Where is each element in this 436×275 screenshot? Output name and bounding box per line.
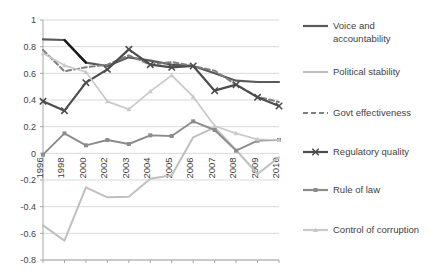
data-point-marker bbox=[84, 143, 88, 147]
y-tick-label: 0.2 bbox=[23, 122, 36, 132]
chart-container: 10.80.60.40.20-0.2-0.4-0.6-0.8 199619982… bbox=[0, 0, 436, 275]
series-regulatory-quality bbox=[40, 46, 282, 114]
y-tick-label: 1 bbox=[31, 15, 36, 25]
y-tick-label: -0.6 bbox=[20, 229, 36, 239]
series-line bbox=[43, 39, 279, 82]
legend-item[interactable]: Political stability bbox=[303, 66, 400, 77]
legend-item[interactable]: Regulatory quality bbox=[303, 146, 409, 157]
y-axis-tick-labels: 10.80.60.40.20-0.2-0.4-0.6-0.8 bbox=[20, 15, 36, 265]
x-axis-tick-labels: 1996199820002002200320042005200620072008… bbox=[34, 157, 281, 178]
legend-label: Control of corruption bbox=[333, 224, 419, 235]
legend-label: Voice and bbox=[333, 20, 375, 31]
series-voice-and-accountability bbox=[43, 39, 279, 82]
series-line bbox=[43, 127, 279, 240]
y-tick-label: 0.6 bbox=[23, 69, 36, 79]
x-tick-label: 1998 bbox=[55, 157, 66, 178]
data-point-marker bbox=[314, 188, 318, 192]
line-chart: 10.80.60.40.20-0.2-0.4-0.6-0.8 199619982… bbox=[0, 0, 436, 275]
chart-legend: Voice andaccountabilityPolitical stabili… bbox=[303, 20, 419, 235]
data-point-marker bbox=[213, 128, 217, 132]
legend-item[interactable]: Rule of law bbox=[303, 184, 380, 195]
data-point-marker bbox=[191, 119, 195, 123]
series-voice-accent bbox=[64, 40, 85, 63]
series-line-segment bbox=[64, 40, 85, 63]
data-point-marker bbox=[127, 142, 131, 146]
x-tick-label: 2007 bbox=[206, 157, 217, 178]
legend-label: accountability bbox=[333, 33, 391, 44]
data-point-marker bbox=[148, 133, 152, 137]
legend-label: Regulatory quality bbox=[333, 146, 409, 157]
x-tick-label: 2000 bbox=[77, 157, 88, 178]
axes bbox=[40, 20, 279, 263]
data-point-marker bbox=[41, 153, 45, 157]
x-tick-label: 2002 bbox=[98, 157, 109, 178]
data-point-marker bbox=[105, 138, 109, 142]
x-tick-label: 2008 bbox=[227, 157, 238, 178]
x-tick-label: 2004 bbox=[141, 157, 152, 178]
x-tick-label: 2009 bbox=[249, 157, 260, 178]
legend-label: Rule of law bbox=[333, 184, 380, 195]
legend-item[interactable]: Control of corruption bbox=[303, 224, 419, 235]
y-tick-label: 0.4 bbox=[23, 95, 36, 105]
x-tick-label: 2006 bbox=[184, 157, 195, 178]
legend-item[interactable]: Voice andaccountability bbox=[303, 20, 391, 44]
series-line bbox=[43, 49, 279, 110]
y-tick-label: 0 bbox=[31, 149, 36, 159]
series-rule-of-law bbox=[41, 119, 281, 156]
data-point-marker bbox=[62, 131, 66, 135]
data-point-marker bbox=[170, 134, 174, 138]
data-series-layer bbox=[40, 39, 282, 240]
data-point-marker bbox=[83, 79, 89, 85]
x-tick-label: 2003 bbox=[120, 157, 131, 178]
y-tick-label: -0.4 bbox=[20, 202, 36, 212]
legend-label: Govt effectiveness bbox=[333, 107, 411, 118]
y-tick-label: 0.8 bbox=[23, 42, 36, 52]
data-point-marker bbox=[234, 149, 238, 153]
x-tick-label: 1996 bbox=[34, 157, 45, 178]
y-tick-label: -0.8 bbox=[20, 255, 36, 265]
legend-label: Political stability bbox=[333, 66, 400, 77]
legend-item[interactable]: Govt effectiveness bbox=[303, 107, 411, 118]
series-political-stability bbox=[43, 127, 279, 240]
